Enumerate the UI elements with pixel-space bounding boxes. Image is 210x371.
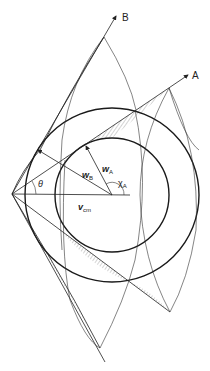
v-cm-vector (12, 194, 130, 195)
label-w-b: wB (82, 170, 93, 181)
arc-right-inner (140, 88, 170, 312)
label-chi-a: χA (118, 178, 127, 189)
line-lower-left (12, 194, 105, 362)
arc-left-wide (60, 37, 104, 250)
arc-vertical-mid (100, 110, 143, 348)
label-theta: θ (38, 179, 43, 189)
w-b-vector (38, 150, 112, 195)
line-a-upper (12, 75, 188, 194)
label-b: B (122, 12, 129, 23)
label-a: A (192, 70, 199, 81)
label-v-cm: vcm (78, 202, 91, 213)
arc-b (104, 37, 136, 110)
velocity-diagram: B A wB wA χA vcm θ (0, 0, 210, 371)
label-w-a: wA (102, 164, 113, 175)
arc-right-outer (169, 88, 196, 312)
theta-angle-arc (32, 181, 36, 194)
